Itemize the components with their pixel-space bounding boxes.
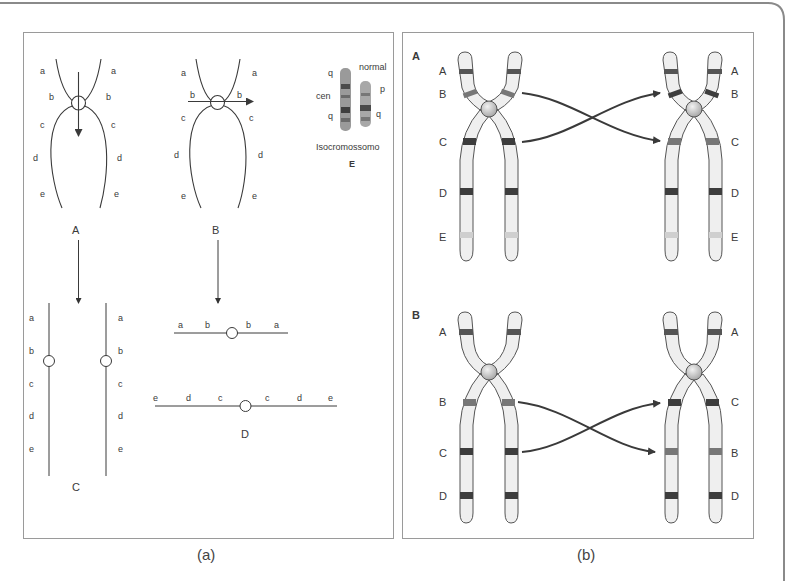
band-label: A xyxy=(439,65,447,77)
locus-label: a xyxy=(181,68,186,78)
locus-label: b xyxy=(118,346,123,356)
locus-label: e xyxy=(29,444,34,454)
locus-label: d xyxy=(297,393,302,403)
locus-label: d xyxy=(174,150,179,160)
locus-label: b xyxy=(49,92,54,102)
centromere-icon xyxy=(686,101,702,117)
crossing-arrows-b xyxy=(518,402,660,452)
panel-b: A A B C D E xyxy=(403,33,754,564)
band-label: D xyxy=(731,187,739,199)
locus-label: a xyxy=(29,313,34,323)
normal-label: normal xyxy=(359,62,387,72)
band-label: B xyxy=(731,447,738,459)
centromere-icon xyxy=(686,364,702,380)
chromosome-b-left xyxy=(458,312,522,523)
crossing-arrows-a xyxy=(522,93,660,142)
isochromosome-image xyxy=(340,68,371,131)
caption-b: (b) xyxy=(577,546,595,563)
chromosome-a-left-labels: A B C D E xyxy=(439,65,447,243)
locus-label: d xyxy=(118,411,123,421)
chromosome-b-left-labels: A B C D xyxy=(439,326,447,502)
locus-label: a xyxy=(252,68,257,78)
chromosome-a-right-labels: A B C D E xyxy=(731,65,739,243)
chromosome-b-right-labels: A C B D xyxy=(731,326,739,502)
flow-arrows xyxy=(79,240,219,303)
figure-canvas: a b c d e a b c d e A a b c d e a xyxy=(0,0,787,581)
chromosome-a-right xyxy=(663,52,722,261)
locus-label: e xyxy=(153,393,158,403)
locus-label: b xyxy=(190,90,195,100)
arm-label-p: p xyxy=(380,84,385,94)
locus-label: a xyxy=(40,66,45,76)
centromere-label: cen xyxy=(316,91,331,101)
diagram-c xyxy=(44,303,112,476)
locus-label: c xyxy=(111,120,116,130)
locus-label: d xyxy=(33,153,38,163)
locus-label: e xyxy=(40,189,45,199)
locus-label: e xyxy=(118,444,123,454)
panel-a: a b c d e a b c d e A a b c d e a xyxy=(24,33,394,564)
band-label: B xyxy=(439,396,446,408)
arm-label-q: q xyxy=(328,111,333,121)
locus-label: b xyxy=(106,92,111,102)
arrow-icon xyxy=(522,403,660,452)
section-label-a: A xyxy=(412,50,420,62)
centromere-icon xyxy=(481,364,497,380)
diagram-e: q normal cen p q q Isocromossomo E xyxy=(316,62,387,169)
locus-label: e xyxy=(181,191,186,201)
band-label: A xyxy=(731,326,739,338)
locus-label: d xyxy=(117,153,122,163)
locus-label: c xyxy=(29,379,34,389)
band-label: C xyxy=(439,136,447,148)
arm-label-q-normal: q xyxy=(376,109,381,119)
band-label: C xyxy=(731,136,739,148)
diagram-b-labels: a b c d e a b c d e B xyxy=(174,68,263,236)
diagram-a xyxy=(51,59,107,208)
diagram-label-c: C xyxy=(72,481,80,493)
centromere-icon xyxy=(481,101,497,117)
band-label: E xyxy=(439,231,446,243)
diagram-label-d: D xyxy=(241,428,249,440)
locus-label: c xyxy=(118,379,123,389)
locus-label: e xyxy=(328,393,333,403)
section-label-b: B xyxy=(412,309,420,321)
band-label: B xyxy=(731,88,738,100)
diagram-ab-line: a b b a xyxy=(174,320,288,339)
locus-label: d xyxy=(186,393,191,403)
band-label: C xyxy=(731,396,739,408)
diagram-d: e d c c d e D xyxy=(153,393,337,440)
locus-label: c xyxy=(181,113,186,123)
band-label: A xyxy=(439,326,447,338)
arrow-icon xyxy=(522,93,660,141)
arrow-icon xyxy=(522,93,660,142)
locus-label: a xyxy=(111,66,116,76)
diagram-label-a: A xyxy=(72,224,80,236)
locus-label: a xyxy=(118,313,123,323)
diagram-c-labels: a b c d e a b c d e C xyxy=(29,313,123,493)
band-label: E xyxy=(731,231,738,243)
locus-label: d xyxy=(29,411,34,421)
locus-label: a xyxy=(274,320,279,330)
locus-label: b xyxy=(246,320,251,330)
band-label: D xyxy=(439,490,447,502)
locus-label: b xyxy=(205,320,210,330)
caption-a: (a) xyxy=(197,546,215,563)
isochromosome-caption: Isocromossomo xyxy=(316,142,380,152)
chromosome-b-right xyxy=(663,312,722,523)
diagram-b xyxy=(188,59,253,208)
arm-label-q: q xyxy=(328,68,333,78)
chromosome-a-left xyxy=(458,52,522,261)
diagram-label-e: E xyxy=(349,159,355,169)
locus-label: a xyxy=(178,320,183,330)
locus-label: c xyxy=(249,113,254,123)
band-label: B xyxy=(439,88,446,100)
locus-label: c xyxy=(265,393,270,403)
locus-label: b xyxy=(237,90,242,100)
band-label: D xyxy=(439,187,447,199)
band-label: A xyxy=(731,65,739,77)
locus-label: c xyxy=(40,120,45,130)
band-label: C xyxy=(439,447,447,459)
locus-label: b xyxy=(29,346,34,356)
diagram-a-labels: a b c d e a b c d e A xyxy=(33,66,122,236)
locus-label: e xyxy=(114,189,119,199)
